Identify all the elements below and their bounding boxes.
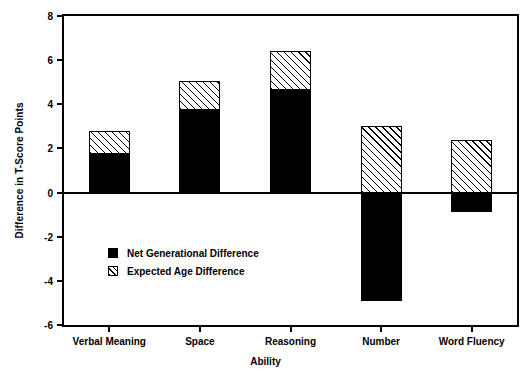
y-axis-tick: -2 — [57, 236, 64, 238]
x-axis-tick — [380, 325, 382, 332]
chart-figure: Difference in T-Score Points -6-4-202468… — [0, 0, 531, 382]
y-axis-tick-label: -4 — [44, 275, 53, 286]
bar-segment-expected-age-difference — [361, 126, 402, 192]
bar-segment-net-generational-difference — [179, 110, 220, 193]
y-axis-tick-label: 4 — [47, 99, 53, 110]
x-axis-category-label: Verbal Meaning — [73, 336, 146, 347]
zero-baseline — [64, 192, 517, 194]
legend-label: Expected Age Difference — [127, 266, 244, 277]
y-axis-tick: 8 — [57, 15, 64, 17]
legend-item-net-generational-difference: Net Generational Difference — [108, 244, 259, 262]
y-axis-title: Difference in T-Score Points — [6, 0, 32, 340]
y-axis-tick: -4 — [57, 280, 64, 282]
legend-label: Net Generational Difference — [127, 248, 259, 259]
y-axis-tick-label: -2 — [44, 231, 53, 242]
x-axis-tick — [290, 325, 292, 332]
y-axis-tick-label: -6 — [44, 320, 53, 331]
plot-area: -6-4-202468 — [62, 14, 519, 327]
x-axis-title: Ability — [0, 356, 531, 367]
legend-swatch-solid-icon — [108, 248, 118, 258]
bar-segment-expected-age-difference — [89, 131, 130, 154]
legend-item-expected-age-difference: Expected Age Difference — [108, 262, 259, 280]
x-axis-category-label: Space — [185, 336, 214, 347]
bar-segment-expected-age-difference — [451, 140, 492, 193]
y-axis-tick-label: 2 — [47, 143, 53, 154]
y-axis-tick-label: 6 — [47, 55, 53, 66]
x-axis-category-label: Word Fluency — [439, 336, 505, 347]
x-axis-category-label: Number — [362, 336, 400, 347]
x-axis-tick — [108, 325, 110, 332]
y-axis-tick-label: 0 — [47, 187, 53, 198]
bar-segment-net-generational-difference — [270, 90, 311, 193]
y-axis-tick: -6 — [57, 324, 64, 326]
y-axis-tick: 4 — [57, 103, 64, 105]
bar-segment-expected-age-difference — [179, 81, 220, 110]
y-axis-tick-label: 8 — [47, 11, 53, 22]
legend-swatch-hatch-icon — [108, 266, 118, 276]
y-axis-tick: 6 — [57, 59, 64, 61]
bar-segment-net-generational-difference — [451, 193, 492, 213]
bar-segment-net-generational-difference — [361, 193, 402, 301]
y-axis-tick: 2 — [57, 147, 64, 149]
x-axis-tick — [199, 325, 201, 332]
chart-legend: Net Generational Difference Expected Age… — [108, 244, 259, 280]
y-axis-title-text: Difference in T-Score Points — [14, 102, 25, 238]
bar-segment-net-generational-difference — [89, 154, 130, 193]
y-axis-tick: 0 — [57, 192, 64, 194]
x-axis-category-label: Reasoning — [265, 336, 316, 347]
bar-segment-expected-age-difference — [270, 51, 311, 90]
x-axis-tick — [471, 325, 473, 332]
